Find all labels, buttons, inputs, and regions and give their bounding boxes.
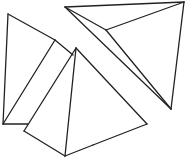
edge-line: [24, 131, 65, 156]
edge-line: [76, 48, 147, 124]
front-pyramid: [24, 48, 147, 156]
edge-line: [65, 145, 93, 156]
pyramids-drawing: [0, 0, 187, 163]
edge-line: [106, 2, 184, 30]
edge-line: [171, 2, 184, 109]
edge-line: [3, 40, 55, 124]
edge-line: [55, 40, 73, 55]
edge-line: [65, 2, 184, 7]
edge-line: [65, 48, 76, 156]
edge-line: [106, 30, 171, 109]
edge-line: [93, 124, 147, 145]
edge-line: [3, 14, 8, 124]
diagram-canvas: [0, 0, 187, 163]
edge-line: [8, 14, 55, 40]
